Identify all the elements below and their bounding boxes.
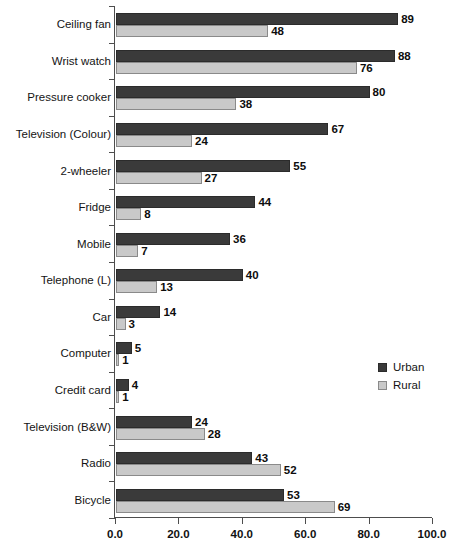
bar-rural: 27: [116, 172, 202, 184]
legend-label-rural: Rural: [393, 379, 420, 391]
chart-category-row: Ceiling fan8948: [115, 6, 432, 43]
category-label: Pressure cooker: [0, 91, 111, 103]
bar-value-label: 1: [122, 391, 128, 404]
bar-urban: 53: [116, 489, 284, 501]
bar-value-label: 52: [284, 464, 297, 477]
bar-urban: 55: [116, 160, 290, 172]
bar-rural: 76: [116, 62, 357, 74]
bar-value-label: 3: [129, 318, 135, 331]
chart-category-row: 2-wheeler5527: [115, 152, 432, 189]
legend-item-urban: Urban: [378, 358, 424, 376]
bar-rural: 28: [116, 428, 205, 440]
bar-value-label: 48: [271, 25, 284, 38]
category-label: Radio: [0, 457, 111, 469]
x-axis-tick-label: 100.0: [418, 528, 447, 540]
bar-urban: 4: [116, 379, 129, 391]
category-label: Television (B&W): [0, 421, 111, 433]
bar-value-label: 27: [205, 172, 218, 185]
bar-urban: 80: [116, 86, 370, 98]
x-axis-tick-label: 60.0: [294, 528, 316, 540]
x-axis-tick: [242, 518, 243, 524]
chart-category-row: Television (B&W)2428: [115, 408, 432, 445]
bar-value-label: 44: [258, 196, 271, 209]
bar-value-label: 5: [135, 342, 141, 355]
bar-rural: 1: [116, 354, 119, 366]
x-axis-tick: [432, 518, 433, 524]
chart-category-row: Television (Colour)6724: [115, 116, 432, 153]
x-axis-tick: [305, 518, 306, 524]
bar-value-label: 76: [360, 62, 373, 75]
x-axis-tick-label: 20.0: [167, 528, 189, 540]
category-label: 2-wheeler: [0, 165, 111, 177]
bar-value-label: 1: [122, 354, 128, 367]
x-axis-tick-label: 0.0: [107, 528, 123, 540]
category-label: Fridge: [0, 201, 111, 213]
chart-legend: Urban Rural: [378, 358, 424, 394]
legend-label-urban: Urban: [393, 361, 424, 373]
bar-rural: 8: [116, 208, 141, 220]
bar-value-label: 40: [246, 269, 259, 282]
chart-category-row: Bicycle5369: [115, 481, 432, 518]
legend-swatch-urban-icon: [378, 363, 387, 372]
plot-area: Ceiling fan8948Wrist watch8876Pressure c…: [115, 6, 432, 518]
legend-swatch-rural-icon: [378, 381, 387, 390]
bar-rural: 48: [116, 25, 268, 37]
x-axis-tick: [178, 518, 179, 524]
bar-value-label: 69: [338, 501, 351, 514]
bar-rural: 52: [116, 464, 281, 476]
bar-urban: 89: [116, 13, 398, 25]
bar-urban: 24: [116, 416, 192, 428]
bar-value-label: 8: [144, 208, 150, 221]
bar-chart: Ceiling fan8948Wrist watch8876Pressure c…: [0, 0, 451, 547]
category-label: Television (Colour): [0, 128, 111, 140]
bar-value-label: 14: [163, 306, 176, 319]
category-label: Computer: [0, 347, 111, 359]
bar-rural: 38: [116, 98, 236, 110]
x-axis-tick-label: 40.0: [231, 528, 253, 540]
bar-value-label: 55: [293, 160, 306, 173]
bar-value-label: 4: [132, 379, 138, 392]
bar-value-label: 38: [239, 98, 252, 111]
category-label: Wrist watch: [0, 55, 111, 67]
x-axis-tick: [369, 518, 370, 524]
category-label: Telephone (L): [0, 274, 111, 286]
bar-rural: 7: [116, 245, 138, 257]
bar-value-label: 28: [208, 428, 221, 441]
bar-value-label: 89: [401, 13, 414, 26]
chart-category-row: Mobile367: [115, 225, 432, 262]
bar-rural: 13: [116, 281, 157, 293]
bar-value-label: 88: [398, 50, 411, 63]
bar-value-label: 80: [373, 86, 386, 99]
bar-rural: 1: [116, 391, 119, 403]
category-label: Bicycle: [0, 494, 111, 506]
bar-value-label: 67: [331, 123, 344, 136]
x-axis-tick-label: 80.0: [357, 528, 379, 540]
chart-category-row: Wrist watch8876: [115, 43, 432, 80]
bar-value-label: 7: [141, 245, 147, 258]
chart-category-row: Fridge448: [115, 189, 432, 226]
category-label: Ceiling fan: [0, 18, 111, 30]
bar-urban: 5: [116, 342, 132, 354]
chart-category-row: Radio4352: [115, 445, 432, 482]
bar-rural: 69: [116, 501, 335, 513]
bar-rural: 3: [116, 318, 126, 330]
bar-urban: 14: [116, 306, 160, 318]
bar-urban: 40: [116, 269, 243, 281]
bar-value-label: 13: [160, 281, 173, 294]
legend-item-rural: Rural: [378, 376, 424, 394]
chart-category-row: Pressure cooker8038: [115, 79, 432, 116]
x-axis-tick: [115, 518, 116, 524]
category-label: Credit card: [0, 384, 111, 396]
bar-urban: 88: [116, 50, 395, 62]
bar-urban: 67: [116, 123, 328, 135]
category-label: Mobile: [0, 238, 111, 250]
bar-value-label: 24: [195, 135, 208, 148]
bar-urban: 43: [116, 452, 252, 464]
bar-value-label: 36: [233, 233, 246, 246]
bar-rural: 24: [116, 135, 192, 147]
chart-category-row: Car143: [115, 299, 432, 336]
category-label: Car: [0, 311, 111, 323]
chart-category-row: Telephone (L)4013: [115, 262, 432, 299]
bar-urban: 36: [116, 233, 230, 245]
bar-urban: 44: [116, 196, 255, 208]
